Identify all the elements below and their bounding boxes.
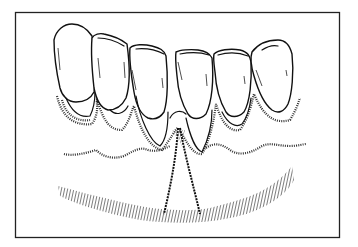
- dental-illustration: [0, 0, 358, 247]
- illustration-canvas: [0, 0, 358, 247]
- vestibule-hatching: [58, 166, 294, 223]
- tooth-5: [214, 49, 252, 116]
- tooth-1: [54, 24, 95, 102]
- teeth: [54, 24, 293, 152]
- frenum: [164, 128, 200, 214]
